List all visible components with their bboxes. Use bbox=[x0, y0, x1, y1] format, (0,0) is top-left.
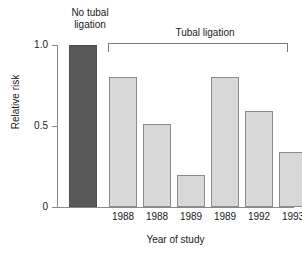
bars-container bbox=[58, 45, 294, 207]
no-tubal-ligation-label: No tubal ligation bbox=[48, 7, 132, 30]
tubal-ligation-label: Tubal ligation bbox=[140, 27, 270, 39]
bar-no-tubal-ligation bbox=[69, 45, 97, 207]
y-tick-mark-0-5 bbox=[52, 126, 57, 127]
x-tick-label-4: 1989 bbox=[206, 211, 244, 222]
bar-1988-1 bbox=[109, 77, 137, 207]
x-axis-line bbox=[57, 207, 294, 208]
x-tick-label-3: 1989 bbox=[172, 211, 210, 222]
x-tick-label-5: 1992 bbox=[240, 211, 278, 222]
bar-1989-3 bbox=[177, 175, 205, 207]
x-axis-title: Year of study bbox=[57, 234, 294, 245]
bar-1992-5 bbox=[245, 111, 273, 207]
x-tick-label-6: 1993 bbox=[274, 211, 302, 222]
bar-1988-2 bbox=[143, 124, 171, 207]
x-tick-label-1: 1988 bbox=[104, 211, 142, 222]
relative-risk-bar-chart: No tubal ligation Tubal ligation 1.0 0.5… bbox=[0, 0, 302, 260]
y-tick-mark-0 bbox=[52, 207, 57, 208]
y-axis-title: Relative risk bbox=[11, 57, 21, 147]
x-tick-label-2: 1988 bbox=[138, 211, 176, 222]
y-tick-label-1: 1.0 bbox=[8, 40, 48, 50]
bar-1989-4 bbox=[211, 77, 239, 207]
y-tick-label-0: 0 bbox=[8, 202, 48, 212]
bar-1993-6 bbox=[279, 152, 302, 207]
y-tick-mark-1 bbox=[52, 45, 57, 46]
